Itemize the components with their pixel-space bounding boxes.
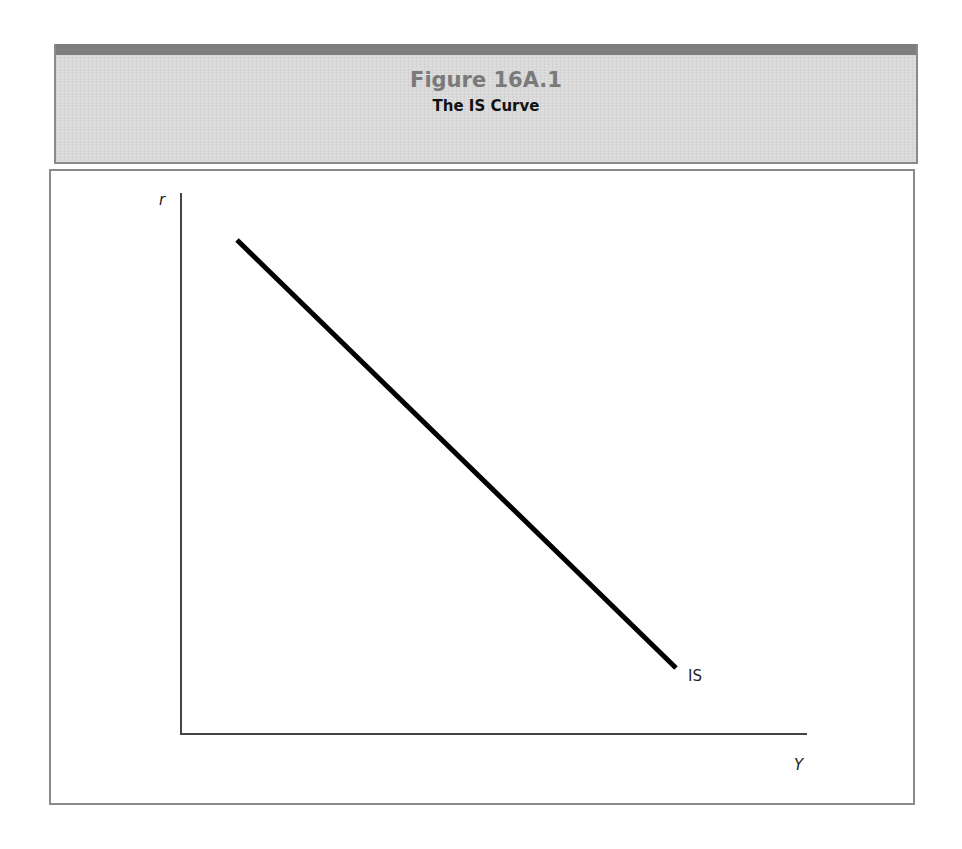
is-curve-line	[237, 240, 676, 668]
x-axis-label: Y	[794, 756, 805, 774]
y-axis-label: r	[159, 191, 166, 209]
is-curve-chart: r Y IS	[0, 0, 962, 849]
is-curve-label: IS	[688, 667, 702, 685]
